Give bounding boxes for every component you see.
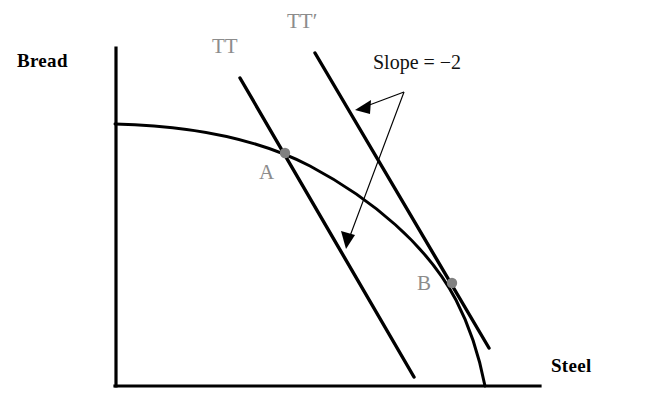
diagram-canvas [0,0,648,409]
point-a-dot [280,148,290,158]
slope-arrow-lower-head [341,231,355,249]
tangent-line-tt-prime-label: TT′ [287,9,317,34]
point-b-label: B [417,271,431,296]
slope-arrow-upper-head [355,100,371,114]
x-axis-label: Steel [551,355,592,377]
y-axis-label: Bread [17,50,68,72]
ppf-diagram: Bread Steel TT TT′ A B Slope = −2 [0,0,648,409]
tangent-line-tt [240,78,414,377]
ppf-curve [115,124,485,386]
point-a-label: A [259,160,274,185]
tangent-line-tt-label: TT [212,34,238,59]
slope-annotation-label: Slope = −2 [373,51,461,74]
slope-arrow-lower-shaft [350,92,404,236]
tangency-points-group [280,148,457,288]
point-b-dot [447,278,457,288]
axes-group [115,48,540,386]
